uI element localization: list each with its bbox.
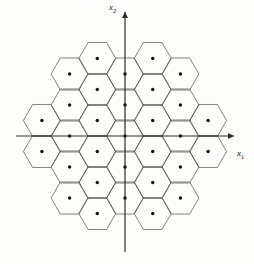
lattice-point bbox=[179, 134, 182, 137]
lattice-point bbox=[96, 181, 99, 184]
lattice-point bbox=[179, 165, 182, 168]
lattice-point bbox=[179, 196, 182, 199]
x-axis-arrowhead bbox=[228, 133, 234, 139]
lattice-point bbox=[40, 150, 43, 153]
lattice-point bbox=[206, 119, 209, 122]
lattice-point bbox=[151, 181, 154, 184]
lattice-point bbox=[68, 196, 71, 199]
lattice-point bbox=[96, 212, 99, 215]
lattice-point bbox=[151, 212, 154, 215]
lattice-point bbox=[40, 119, 43, 122]
lattice-point bbox=[96, 88, 99, 91]
lattice-point bbox=[151, 88, 154, 91]
lattice-point bbox=[68, 165, 71, 168]
lattice-point bbox=[96, 119, 99, 122]
y-axis-label-subscript: 2 bbox=[113, 7, 116, 14]
lattice-point bbox=[123, 72, 126, 75]
lattice-point bbox=[206, 150, 209, 153]
y-axis-label: x2 bbox=[109, 2, 116, 14]
axes-group bbox=[16, 12, 234, 252]
lattice-point bbox=[68, 72, 71, 75]
lattice-point bbox=[151, 57, 154, 60]
lattice-point bbox=[179, 72, 182, 75]
lattice-point bbox=[123, 134, 126, 137]
lattice-canvas bbox=[0, 0, 254, 264]
y-axis-arrowhead bbox=[122, 12, 128, 18]
lattice-point bbox=[68, 103, 71, 106]
lattice-point bbox=[151, 150, 154, 153]
lattice-point bbox=[151, 119, 154, 122]
lattice-point bbox=[123, 196, 126, 199]
hexagonal-lattice-figure: x2 x1 bbox=[0, 0, 254, 264]
lattice-point bbox=[96, 150, 99, 153]
lattice-point bbox=[68, 134, 71, 137]
lattice-point bbox=[96, 57, 99, 60]
x-axis-label: x1 bbox=[237, 148, 244, 160]
lattice-point bbox=[123, 103, 126, 106]
x-axis-label-subscript: 1 bbox=[241, 153, 244, 160]
lattice-point bbox=[123, 165, 126, 168]
lattice-point bbox=[179, 103, 182, 106]
